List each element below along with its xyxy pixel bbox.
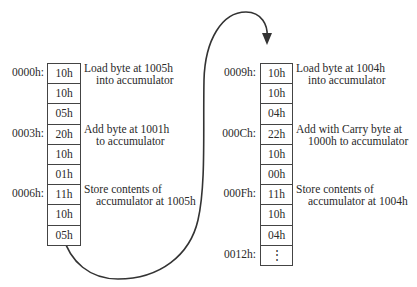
note-line: into accumulator [296, 74, 386, 86]
memory-cell: 10h [261, 205, 292, 225]
address-label: 0012h: [212, 248, 256, 260]
note-line: Store contents of [296, 183, 408, 195]
instruction-note: Add with Carry byte at1000h to accumulat… [296, 123, 408, 147]
note-line: into accumulator [84, 74, 174, 86]
instruction-note: Load byte at 1005hinto accumulator [84, 62, 174, 86]
address-label: 0006h: [0, 187, 44, 199]
note-line: Load byte at 1004h [296, 62, 386, 74]
note-line: 1000h to accumulator [296, 135, 408, 147]
memory-cell: 10h [48, 84, 80, 104]
memory-cell: ⋮ [261, 246, 292, 265]
memory-cell: 10h [48, 64, 80, 84]
memory-column-right: 10h10h04h22h10h00h11h10h04h⋮ [260, 63, 293, 266]
address-label: 0000h: [0, 66, 44, 78]
memory-cell: 00h [261, 165, 292, 185]
memory-cell: 20h [48, 125, 80, 145]
memory-column-left: 10h10h05h20h10h01h11h10h05h [47, 63, 81, 246]
arrowhead-icon [262, 33, 272, 45]
address-label: 000Fh: [212, 187, 256, 199]
note-line: Load byte at 1005h [84, 62, 174, 74]
memory-cell: 10h [261, 84, 292, 104]
memory-cell: 10h [48, 205, 80, 225]
memory-cell: 01h [48, 165, 80, 185]
instruction-note: Store contents ofaccumulator at 1005h [84, 183, 196, 207]
note-line: Store contents of [84, 183, 196, 195]
instruction-note: Load byte at 1004hinto accumulator [296, 62, 386, 86]
memory-cell: 05h [48, 226, 80, 245]
memory-cell: 11h [261, 185, 292, 205]
memory-cell: 04h [261, 104, 292, 124]
instruction-note: Add byte at 1001hto accumulator [84, 123, 169, 147]
memory-cell: 11h [48, 185, 80, 205]
memory-cell: 10h [48, 145, 80, 165]
note-line: Add byte at 1001h [84, 123, 169, 135]
memory-cell: 05h [48, 104, 80, 124]
note-line: to accumulator [84, 135, 169, 147]
memory-cell: 10h [261, 145, 292, 165]
memory-cell: 10h [261, 64, 292, 84]
note-line: accumulator at 1005h [84, 195, 196, 207]
memory-cell: 04h [261, 226, 292, 246]
address-label: 0003h: [0, 127, 44, 139]
address-label: 0009h: [212, 66, 256, 78]
note-line: accumulator at 1004h [296, 195, 408, 207]
memory-cell: 22h [261, 125, 292, 145]
note-line: Add with Carry byte at [296, 123, 408, 135]
instruction-note: Store contents ofaccumulator at 1004h [296, 183, 408, 207]
address-label: 000Ch: [212, 127, 256, 139]
